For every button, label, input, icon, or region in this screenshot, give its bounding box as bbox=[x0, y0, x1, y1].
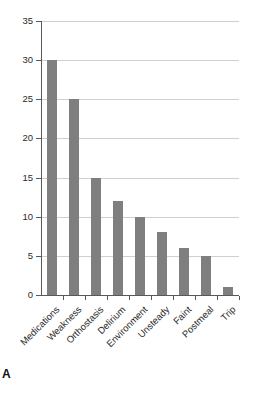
x-tick-mark bbox=[63, 296, 64, 300]
bar-chart-figure: 05101520253035 MedicationsWeaknessOrthos… bbox=[0, 0, 255, 393]
bar bbox=[179, 248, 189, 295]
bar bbox=[113, 201, 123, 295]
y-tick-label: 10 bbox=[22, 212, 33, 222]
y-tick-label: 20 bbox=[22, 133, 33, 143]
bar bbox=[157, 232, 167, 295]
bar bbox=[91, 178, 101, 295]
y-tick-label: 35 bbox=[22, 16, 33, 26]
bar bbox=[47, 60, 57, 295]
bar bbox=[135, 217, 145, 295]
x-tick-label: Environment bbox=[58, 304, 150, 393]
bar-series bbox=[41, 21, 239, 295]
x-axis-line bbox=[41, 295, 239, 296]
x-tick-mark bbox=[195, 296, 196, 300]
x-tick-mark bbox=[107, 296, 108, 300]
x-tick-label: Trip bbox=[146, 304, 238, 393]
y-tick-label: 15 bbox=[22, 173, 33, 183]
y-tick-label: 0 bbox=[28, 290, 33, 300]
y-tick-label: 25 bbox=[22, 94, 33, 104]
x-tick-label: Unsteady bbox=[80, 304, 172, 393]
x-tick-label: Delirium bbox=[36, 304, 128, 393]
x-tick-mark bbox=[239, 296, 240, 300]
y-tick-label: 5 bbox=[28, 251, 33, 261]
y-tick-label: 30 bbox=[22, 55, 33, 65]
x-tick-mark bbox=[85, 296, 86, 300]
x-tick-label: Faint bbox=[102, 304, 194, 393]
x-tick-label: Orthostasis bbox=[14, 304, 106, 393]
x-tick-mark bbox=[217, 296, 218, 300]
panel-letter: A bbox=[2, 368, 11, 380]
x-tick-label: Postmeal bbox=[124, 304, 216, 393]
x-tick-mark bbox=[129, 296, 130, 300]
y-tick-mark bbox=[36, 295, 41, 296]
x-tick-label: Weakness bbox=[0, 304, 84, 393]
bar bbox=[223, 287, 233, 295]
x-tick-mark bbox=[173, 296, 174, 300]
bar bbox=[201, 256, 211, 295]
x-tick-mark bbox=[151, 296, 152, 300]
bar bbox=[69, 99, 79, 295]
